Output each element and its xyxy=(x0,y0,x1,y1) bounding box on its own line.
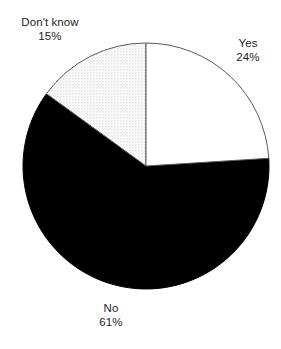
pie-chart-figure: Don't know 15% Yes 24% No 61% xyxy=(0,0,281,349)
pie-label-dontknow-value: 15% xyxy=(14,29,86,43)
pie-label-dontknow: Don't know 15% xyxy=(14,15,86,43)
pie-label-yes: Yes 24% xyxy=(222,36,274,64)
pie-label-dontknow-name: Don't know xyxy=(14,15,86,29)
pie-label-no: No 61% xyxy=(90,301,132,329)
pie-label-no-value: 61% xyxy=(90,315,132,329)
pie-label-no-name: No xyxy=(90,301,132,315)
pie-label-yes-name: Yes xyxy=(222,36,274,50)
pie-label-yes-value: 24% xyxy=(222,50,274,64)
